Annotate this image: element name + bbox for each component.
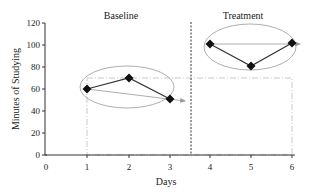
y-axis-label: Minutes of Studying bbox=[10, 48, 21, 130]
svg-text:6: 6 bbox=[290, 162, 295, 172]
y-tick-labels: 0 20 40 60 80 100 120 bbox=[27, 18, 41, 160]
reference-rectangle bbox=[87, 78, 292, 155]
x-tick-labels: 0 1 2 3 4 5 6 bbox=[44, 162, 295, 172]
x-axis-label: Days bbox=[156, 176, 177, 187]
svg-text:0: 0 bbox=[36, 150, 41, 160]
svg-text:1: 1 bbox=[85, 162, 90, 172]
svg-text:100: 100 bbox=[27, 40, 41, 50]
svg-text:0: 0 bbox=[44, 162, 49, 172]
svg-text:80: 80 bbox=[31, 62, 41, 72]
svg-text:2: 2 bbox=[127, 162, 132, 172]
svg-text:3: 3 bbox=[168, 162, 173, 172]
treatment-data-points bbox=[206, 39, 297, 71]
svg-text:60: 60 bbox=[31, 84, 41, 94]
baseline-data-points bbox=[83, 74, 175, 104]
single-case-design-chart: 0 20 40 60 80 100 120 0 1 2 3 4 5 6 Days… bbox=[0, 0, 314, 194]
svg-text:4: 4 bbox=[208, 162, 213, 172]
svg-text:5: 5 bbox=[249, 162, 254, 172]
svg-text:20: 20 bbox=[31, 128, 41, 138]
phase-label-baseline: Baseline bbox=[104, 10, 139, 21]
svg-text:40: 40 bbox=[31, 106, 41, 116]
phase-label-treatment: Treatment bbox=[223, 10, 264, 21]
svg-text:120: 120 bbox=[27, 18, 41, 28]
